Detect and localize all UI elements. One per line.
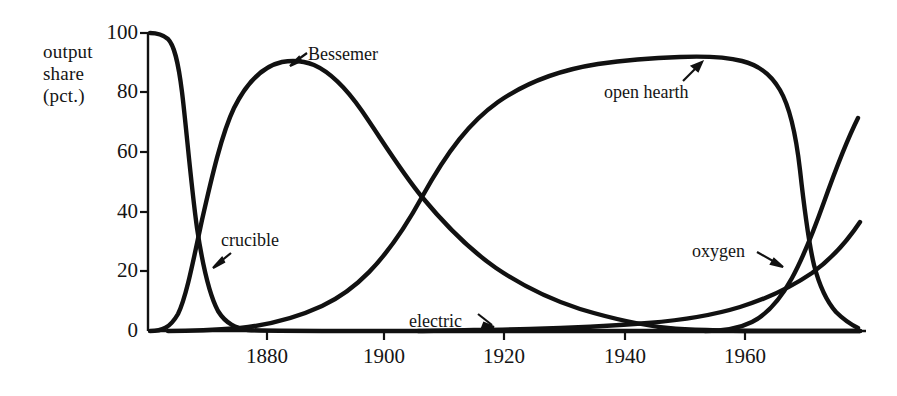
arrow-electric bbox=[478, 314, 494, 328]
series-group bbox=[150, 33, 860, 331]
annotation-arrows-group bbox=[213, 53, 783, 328]
arrow-open-hearth bbox=[683, 62, 702, 81]
arrow-oxygen bbox=[757, 252, 783, 267]
axes-group bbox=[140, 33, 866, 340]
arrow-crucible bbox=[213, 253, 231, 268]
series-line-oxygen bbox=[705, 118, 858, 331]
series-line-bessemer bbox=[150, 61, 860, 331]
chart-canvas bbox=[0, 0, 897, 396]
series-line-open-hearth bbox=[168, 57, 858, 331]
steel-output-share-chart: output share (pct.) 100 80 60 40 20 0 18… bbox=[0, 0, 897, 396]
